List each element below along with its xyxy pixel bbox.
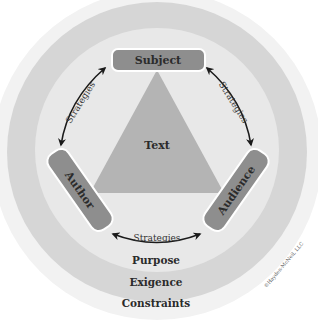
exigence-label: Exigence [130, 276, 183, 288]
subject-label: Subject [135, 54, 182, 67]
constraints-label: Constraints [122, 297, 191, 309]
rhetorical-situation-diagram: Text Subject Author Audience Strategies … [0, 0, 318, 328]
bottom-strategies-label: Strategies [134, 233, 181, 243]
text-label: Text [144, 139, 170, 152]
subject-node: Subject [112, 49, 205, 71]
purpose-label: Purpose [132, 254, 180, 266]
